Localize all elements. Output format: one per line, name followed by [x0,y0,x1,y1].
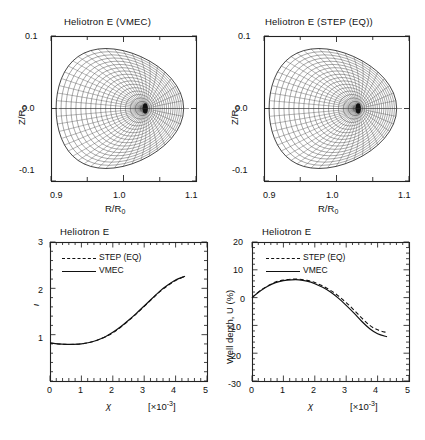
well-legend-solid-swatch [266,271,300,272]
iota-xtick-2: 2 [109,385,114,395]
well-xtick-1: 1 [280,385,285,395]
iota-xunits: [×10-3] [148,400,176,412]
well-ytick-m30: -30 [228,379,241,389]
well-xtick-5: 5 [405,385,410,395]
flux-vmec-ytick-bot: -0.1 [19,165,35,175]
flux-step-xtick-0: 0.9 [263,190,276,200]
iota-frame [51,243,208,382]
well-xlabel: χ [308,400,313,411]
well-ytick-0: 0 [240,294,245,304]
flux-vmec-xtick-2: 1.1 [185,190,198,200]
flux-step-plot [264,36,416,188]
iota-xtick-0: 0 [47,385,52,395]
figure-canvas: Heliotron E (VMEC) 0.1 0.0 -0.1 Z/R0 0.9… [0,0,425,440]
well-title: Heliotron E [262,226,311,237]
flux-vmec-ylabel: Z/R0 [16,106,28,125]
well-xtick-4: 4 [373,385,378,395]
well-xtick-0: 0 [249,385,254,395]
iota-legend-solid-swatch [62,271,96,272]
well-ylabel: Well depth, U (%) [224,290,235,364]
flux-vmec-xtick-1: 1.0 [113,190,126,200]
iota-plot [50,242,215,387]
flux-step-xtick-2: 1.1 [398,190,411,200]
well-legend-dash-swatch [266,258,300,259]
flux-step-ylabel: Z/R0 [229,106,241,125]
iota-legend-label-vmec: VMEC [99,265,124,275]
well-xunits: [×10-3] [350,400,378,412]
flux-step-frame [265,37,410,182]
flux-step-xtick-1: 1.0 [326,190,339,200]
well-ytick-10: 10 [233,265,243,275]
iota-xtick-5: 5 [203,385,208,395]
well-legend-label-step: STEP (EQ) [303,252,345,262]
flux-vmec-xlabel: R/R0 [105,203,125,215]
well-legend-label-vmec: VMEC [303,265,328,275]
well-plot [252,242,417,387]
flux-step-title: Heliotron E (STEP (EQ)) [265,16,373,27]
flux-step-ytick-top: 0.1 [238,31,251,41]
iota-title: Heliotron E [60,226,109,237]
iota-ylabel: ι [30,304,41,306]
iota-xtick-4: 4 [171,385,176,395]
flux-step-ytick-bot: -0.1 [232,165,248,175]
flux-vmec-ytick-top: 0.1 [25,31,38,41]
well-xtick-2: 2 [311,385,316,395]
flux-vmec-plot [51,36,203,188]
iota-xtick-1: 1 [78,385,83,395]
flux-vmec-title: Heliotron E (VMEC) [64,16,151,27]
iota-xlabel: χ [106,400,111,411]
iota-ytick-2: 2 [38,285,43,295]
flux-step-xlabel: R/R0 [318,203,338,215]
iota-legend-dash-swatch [62,258,96,259]
iota-xtick-3: 3 [140,385,145,395]
iota-legend-label-step: STEP (EQ) [99,252,141,262]
iota-ytick-1: 1 [38,333,43,343]
well-xtick-3: 3 [342,385,347,395]
flux-vmec-frame [52,37,197,182]
flux-vmec-xtick-0: 0.9 [50,190,63,200]
well-ytick-20: 20 [233,237,243,247]
well-frame [253,243,410,382]
iota-ytick-3: 3 [38,237,43,247]
